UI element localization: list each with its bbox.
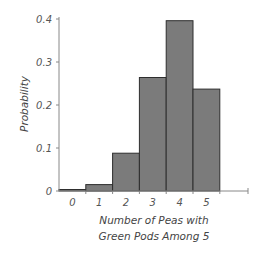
y-ticks: 00.10.20.30.4 bbox=[36, 14, 59, 197]
y-tick-label: 0.3 bbox=[36, 57, 52, 68]
bar-1 bbox=[86, 185, 113, 192]
x-tick-label: 1 bbox=[96, 197, 102, 208]
x-tick-label: 5 bbox=[203, 197, 209, 208]
x-axis-title-line1: Number of Peas with bbox=[99, 214, 208, 226]
bar-2 bbox=[113, 153, 140, 191]
bar-3 bbox=[139, 78, 166, 192]
bar-5 bbox=[193, 89, 220, 191]
x-axis-title-line2: Green Pods Among 5 bbox=[99, 230, 210, 242]
y-tick-label: 0.2 bbox=[36, 100, 52, 111]
y-tick-label: 0.4 bbox=[36, 14, 52, 25]
probability-histogram: 00.10.20.30.4 012345 Probability Number … bbox=[0, 0, 265, 254]
y-tick-label: 0.1 bbox=[36, 143, 52, 154]
x-tick-label: 0 bbox=[69, 197, 75, 208]
y-tick-label: 0 bbox=[46, 186, 52, 197]
bar-4 bbox=[166, 21, 193, 191]
x-tick-label: 4 bbox=[176, 197, 182, 208]
y-axis-title: Probability bbox=[18, 75, 30, 132]
x-tick-label: 3 bbox=[150, 197, 156, 208]
x-tick-label: 2 bbox=[123, 197, 129, 208]
bars-group bbox=[59, 21, 220, 191]
